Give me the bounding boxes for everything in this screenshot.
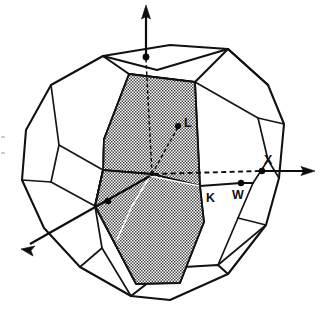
axis-lower-left-arrowhead [21, 246, 35, 256]
left-face-edge [51, 85, 59, 182]
dot-point-W [238, 180, 244, 186]
dot-left-axis [105, 198, 112, 205]
label-L: L [184, 117, 192, 130]
left-face-lower-edge [22, 180, 51, 182]
upper-right-face-edge [228, 49, 268, 85]
lower-left-face-edge2 [80, 248, 102, 267]
dot-top-axis [143, 54, 150, 61]
front-edge-K-W [200, 183, 253, 186]
section-plane-upper [103, 74, 200, 186]
label-W: W [232, 189, 244, 202]
bottom-right-face-edge [218, 225, 266, 265]
left-face-inner-edge [51, 182, 102, 248]
label-K: K [206, 192, 215, 205]
dot-point-L [175, 123, 181, 129]
dot-point-X [259, 168, 265, 174]
brillouin-zone-figure: L X W K [0, 0, 321, 316]
section-plane-group [95, 74, 204, 284]
label-X: X [264, 154, 273, 167]
dot-zone-center [150, 172, 154, 176]
right-face-left-edge [195, 82, 268, 183]
lower-right-inner [218, 218, 238, 265]
right-face-outer-edge [258, 118, 284, 124]
